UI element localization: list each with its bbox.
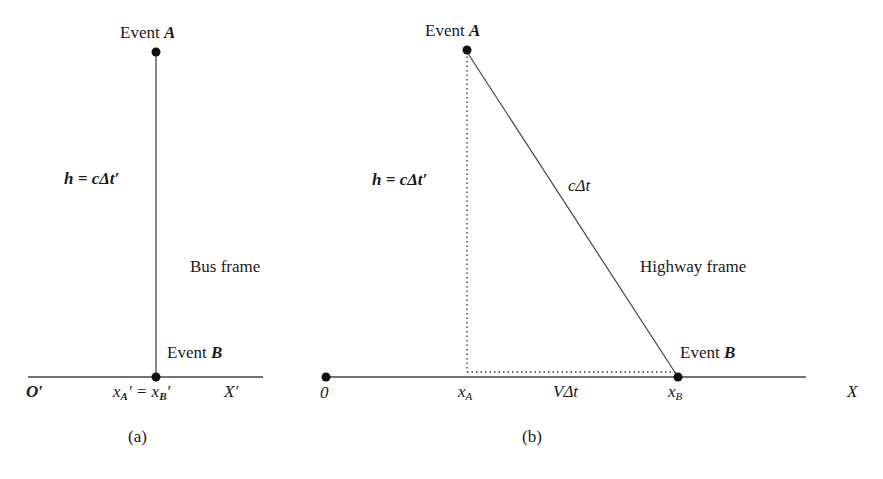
a-caption: (a)	[128, 428, 147, 445]
b-distance-label: VΔt	[553, 383, 578, 400]
diagram-canvas	[0, 0, 883, 479]
b-xb-label: xB	[668, 383, 682, 402]
b-xa-x: x	[458, 382, 466, 401]
a-height-label: h = cΔt′	[64, 170, 119, 187]
a-frame-label: Bus frame	[190, 258, 260, 275]
b-event-b-text: Event	[680, 343, 720, 362]
a-prime: ′	[166, 382, 170, 401]
a-x-a: x	[113, 382, 121, 401]
a-position-label: xA′ = xB′	[113, 383, 170, 402]
b-event-a-dot	[463, 46, 472, 55]
b-xa-sub: A	[466, 390, 473, 402]
b-event-a-label: Event A	[425, 22, 480, 39]
a-eq: ′ = x	[128, 382, 159, 401]
b-xa-label: xA	[458, 383, 472, 402]
a-event-b-var: B	[211, 343, 222, 362]
a-event-b-text: Event	[167, 343, 207, 362]
a-origin-label: O′	[26, 383, 43, 400]
b-origin-dot	[322, 373, 331, 382]
b-event-a-text: Event	[425, 21, 465, 40]
a-axis-label: X′	[224, 383, 238, 400]
b-hypotenuse-label: cΔt	[568, 177, 590, 194]
b-hypotenuse	[467, 52, 678, 377]
a-event-a-text: Event	[120, 23, 160, 42]
a-sub-a: A	[121, 390, 128, 402]
a-event-b-dot	[152, 373, 161, 382]
b-event-b-dot	[674, 373, 683, 382]
b-height-label: h = cΔt′	[372, 171, 427, 188]
b-event-b-var: B	[724, 343, 735, 362]
a-event-a-var: A	[164, 23, 175, 42]
b-xb-sub: B	[676, 390, 683, 402]
a-event-b-label: Event B	[167, 344, 222, 361]
b-xb-x: x	[668, 382, 676, 401]
b-frame-label: Highway frame	[640, 258, 746, 275]
a-event-a-label: Event A	[120, 24, 175, 41]
b-axis-label: X	[847, 383, 857, 400]
b-caption: (b)	[522, 428, 542, 445]
a-event-a-dot	[152, 48, 161, 57]
b-origin-label: 0	[320, 384, 329, 401]
b-event-b-label: Event B	[680, 344, 735, 361]
b-event-a-var: A	[469, 21, 480, 40]
